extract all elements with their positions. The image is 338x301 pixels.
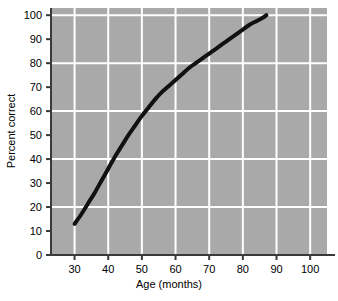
x-tick-labels: 30405060708090100 (68, 263, 319, 275)
x-tick-label: 100 (301, 263, 319, 275)
y-tick-label: 100 (24, 9, 42, 21)
x-tick-label: 70 (203, 263, 215, 275)
x-tick-label: 60 (169, 263, 181, 275)
y-tick-label: 50 (30, 129, 42, 141)
x-tick-label: 90 (270, 263, 282, 275)
y-axis-title-wrap: Percent correct (0, 0, 22, 262)
y-tick-labels: 0102030405060708090100 (24, 9, 42, 261)
x-tick-label: 50 (136, 263, 148, 275)
x-tick-label: 40 (102, 263, 114, 275)
y-tick-label: 40 (30, 153, 42, 165)
y-tick-label: 80 (30, 57, 42, 69)
y-tick-label: 60 (30, 105, 42, 117)
y-tick-label: 20 (30, 201, 42, 213)
y-tick-label: 0 (36, 249, 42, 261)
plot-background (51, 8, 327, 255)
chart-figure: 0102030405060708090100 30405060708090100… (0, 0, 338, 301)
y-axis-title: Percent correct (5, 94, 17, 169)
x-axis-title: Age (months) (0, 278, 338, 290)
y-tick-label: 90 (30, 33, 42, 45)
x-tick-label: 30 (68, 263, 80, 275)
line-chart-plot: 0102030405060708090100 30405060708090100 (0, 0, 338, 301)
y-tick-label: 30 (30, 177, 42, 189)
x-tick-label: 80 (237, 263, 249, 275)
y-tick-label: 10 (30, 225, 42, 237)
y-tick-label: 70 (30, 81, 42, 93)
